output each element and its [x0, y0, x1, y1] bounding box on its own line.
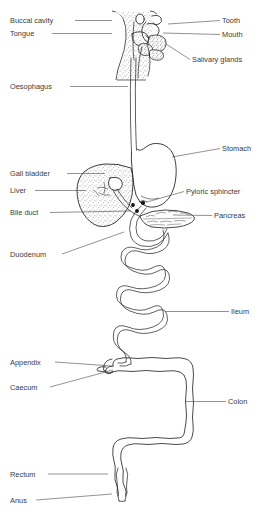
- label-ileum: Ileum: [231, 307, 249, 316]
- right-labels: ToothMouthSalivary glandsStomachPyloric …: [186, 16, 251, 406]
- leader-line-anus: [36, 494, 112, 500]
- label-tongue: Tongue: [10, 29, 34, 38]
- leader-line-caecum: [50, 370, 113, 387]
- pancreas-shape: [140, 210, 194, 228]
- digestive-system-diagram: Buccal cavityTongueOesophagusGall bladde…: [0, 0, 265, 514]
- label-anus: Anus: [10, 496, 27, 505]
- appendix-shape: [97, 367, 106, 372]
- anus-shape: [118, 493, 126, 502]
- label-buccal-cavity: Buccal cavity: [10, 16, 53, 25]
- label-rectum: Rectum: [10, 470, 35, 479]
- label-caecum: Caecum: [10, 383, 38, 392]
- label-liver: Liver: [10, 186, 27, 195]
- leader-line-stomach: [172, 149, 220, 158]
- label-salivary-glands: Salivary glands: [192, 55, 242, 64]
- tooth-shape: [136, 14, 144, 24]
- stomach-shape: [131, 143, 176, 207]
- leader-line-salivary-glands: [166, 44, 190, 60]
- left-leader-lines: [35, 21, 131, 501]
- label-colon: Colon: [228, 397, 247, 406]
- label-mouth: Mouth: [222, 30, 243, 39]
- label-pyloric-sphincter: Pyloric sphincter: [186, 187, 241, 196]
- label-appendix: Appendix: [10, 358, 41, 367]
- colon-shape: [105, 358, 193, 497]
- label-duodenum: Duodenum: [10, 250, 46, 259]
- label-stomach: Stomach: [222, 144, 251, 153]
- leader-line-appendix: [55, 362, 112, 366]
- leader-line-tooth: [168, 21, 220, 25]
- label-tooth: Tooth: [222, 16, 240, 25]
- label-oesophagus: Oesophagus: [10, 82, 52, 91]
- ileocaecal-junction: [118, 362, 131, 366]
- label-pancreas: Pancreas: [214, 211, 246, 220]
- label-bile-duct: Bile duct: [10, 208, 38, 217]
- ileum-shape: [113, 230, 169, 364]
- left-labels: Buccal cavityTongueOesophagusGall bladde…: [10, 16, 53, 505]
- leader-line-duodenum: [62, 232, 124, 254]
- label-gall-bladder: Gall bladder: [10, 169, 50, 178]
- leader-line-mouth: [163, 33, 220, 35]
